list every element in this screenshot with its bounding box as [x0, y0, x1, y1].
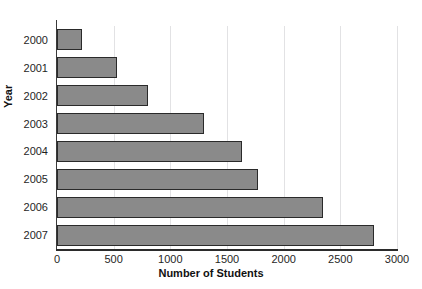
y-tick-2006: 2006: [24, 201, 48, 213]
y-tick-2001: 2001: [24, 62, 48, 74]
y-tick-2007: 2007: [24, 229, 48, 241]
bar-2000: [57, 29, 82, 50]
bar-2003: [57, 113, 204, 134]
bar-2005: [57, 169, 258, 190]
bar-2001: [57, 57, 117, 78]
y-tick-2004: 2004: [24, 145, 48, 157]
bar-2007: [57, 225, 374, 246]
y-tick-2005: 2005: [24, 173, 48, 185]
x-tick-1000: 1000: [158, 253, 182, 265]
x-tick-500: 500: [104, 253, 122, 265]
bar-chart: 20002001200220032004200520062007 0500100…: [0, 0, 422, 289]
bar-2002: [57, 85, 148, 106]
gridline-3000: [397, 26, 398, 249]
bar-2006: [57, 197, 323, 218]
x-axis-line: [56, 249, 398, 251]
y-tick-2003: 2003: [24, 118, 48, 130]
x-axis-title: Number of Students: [0, 267, 422, 279]
y-axis-title: Year: [2, 85, 14, 108]
plot-area: [57, 26, 397, 249]
x-tick-2500: 2500: [328, 253, 352, 265]
x-tick-3000: 3000: [385, 253, 409, 265]
gridline-2500: [340, 26, 341, 249]
x-tick-1500: 1500: [215, 253, 239, 265]
x-tick-2000: 2000: [271, 253, 295, 265]
chart-title-cropped: [0, 0, 422, 7]
x-tick-0: 0: [54, 253, 60, 265]
bar-2004: [57, 141, 242, 162]
y-tick-2002: 2002: [24, 90, 48, 102]
y-tick-2000: 2000: [24, 34, 48, 46]
